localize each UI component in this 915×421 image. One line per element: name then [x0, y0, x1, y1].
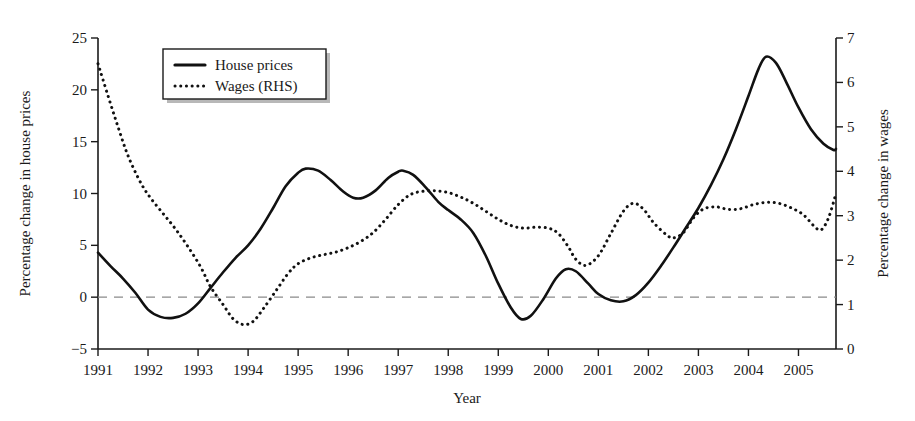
right-axis-tick-label: 6 — [847, 74, 855, 90]
x-axis-tick-label: 2002 — [633, 362, 663, 378]
right-axis-tick-label: 4 — [847, 163, 855, 179]
left-axis-title: Percentage change in house prices — [17, 90, 33, 296]
chart-figure: −505101520250123456719911992199319941995… — [0, 0, 915, 421]
left-axis-tick-label: 0 — [80, 289, 88, 305]
x-axis-tick-label: 2005 — [783, 362, 813, 378]
x-axis-tick-label: 1993 — [183, 362, 213, 378]
x-axis-title: Year — [453, 390, 481, 406]
x-axis-tick-label: 2001 — [583, 362, 613, 378]
right-axis-tick-label: 2 — [847, 252, 855, 268]
x-axis-tick-label: 1991 — [83, 362, 113, 378]
x-axis-tick-label: 2003 — [683, 362, 713, 378]
left-axis-tick-label: 25 — [72, 30, 87, 46]
legend-item-wages-label: Wages (RHS) — [215, 78, 298, 95]
left-axis-tick-label: 15 — [72, 134, 87, 150]
right-axis-title: Percentage change in wages — [875, 109, 891, 278]
right-axis-tick-label: 3 — [847, 208, 855, 224]
legend-item-house-prices-label: House prices — [215, 57, 293, 73]
left-axis-tick-label: −5 — [71, 341, 87, 357]
right-axis-tick-label: 0 — [847, 341, 855, 357]
left-axis-tick-label: 10 — [72, 186, 87, 202]
x-axis-tick-label: 2000 — [533, 362, 563, 378]
x-axis-tick-label: 1998 — [433, 362, 463, 378]
x-axis-tick-label: 1994 — [233, 362, 264, 378]
x-axis-tick-label: 1995 — [283, 362, 313, 378]
right-axis-tick-label: 1 — [847, 297, 855, 313]
chart-canvas: −505101520250123456719911992199319941995… — [0, 0, 915, 421]
right-axis-tick-label: 5 — [847, 119, 855, 135]
x-axis-tick-label: 1992 — [133, 362, 163, 378]
x-axis-tick-label: 1996 — [333, 362, 364, 378]
x-axis-tick-label: 1997 — [383, 362, 414, 378]
x-axis-tick-label: 2004 — [733, 362, 764, 378]
x-axis-tick-label: 1999 — [483, 362, 513, 378]
right-axis-tick-label: 7 — [847, 30, 855, 46]
left-axis-tick-label: 5 — [80, 237, 88, 253]
left-axis-tick-label: 20 — [72, 82, 87, 98]
